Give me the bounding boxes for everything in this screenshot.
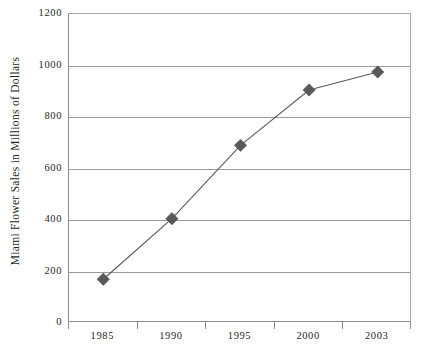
plot-area xyxy=(68,13,411,322)
x-axis-tick xyxy=(410,322,411,329)
y-axis-title-text: Miami Flower Sales in Millions of Dollar… xyxy=(9,57,21,265)
x-axis-tick-label: 2003 xyxy=(365,330,388,341)
y-axis-tick-label: 1200 xyxy=(39,8,62,18)
y-axis-tick-label: 600 xyxy=(44,163,62,173)
y-axis-tick-label: 800 xyxy=(44,111,62,121)
y-axis-tick-label: 1000 xyxy=(39,60,62,70)
x-axis-tick-label: 2000 xyxy=(296,330,319,341)
line-chart: Miami Flower Sales in Millions of Dollar… xyxy=(0,0,423,351)
series-markers xyxy=(97,66,384,286)
x-axis: 19851990199520002003 xyxy=(68,322,411,351)
x-axis-tick-label: 1995 xyxy=(228,330,251,341)
x-axis-tick xyxy=(342,322,343,329)
y-axis-tick-label: 200 xyxy=(44,266,62,276)
y-axis-tick-label: 400 xyxy=(44,214,62,224)
x-axis-tick xyxy=(274,322,275,329)
x-axis-tick xyxy=(205,322,206,329)
y-axis-tick-labels: 020040060080010001200 xyxy=(22,0,62,351)
data-series-layer xyxy=(69,14,412,323)
data-point-marker xyxy=(372,66,384,78)
series-line xyxy=(103,72,377,279)
y-axis-tick-label: 0 xyxy=(56,317,62,327)
x-axis-tick-label: 1990 xyxy=(159,330,182,341)
x-axis-tick xyxy=(68,322,69,329)
x-axis-tick-label: 1985 xyxy=(91,330,114,341)
data-point-marker xyxy=(303,84,315,96)
x-axis-tick xyxy=(137,322,138,329)
